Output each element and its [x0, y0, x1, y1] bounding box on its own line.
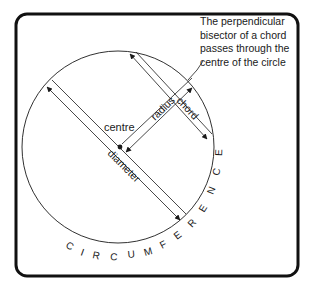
svg-text:U: U	[127, 248, 135, 260]
note-line: bisector of a chord	[200, 29, 312, 43]
centre-label: centre	[104, 121, 135, 133]
svg-text:C: C	[110, 251, 118, 262]
svg-text:E: E	[213, 149, 224, 156]
note-line: centre of the circle	[200, 56, 312, 70]
centre-dot	[118, 145, 123, 150]
note-line: passes through the	[200, 42, 312, 56]
perpendicular-bisector-note: The perpendicular bisector of a chord pa…	[200, 15, 312, 69]
note-line: The perpendicular	[200, 15, 312, 29]
